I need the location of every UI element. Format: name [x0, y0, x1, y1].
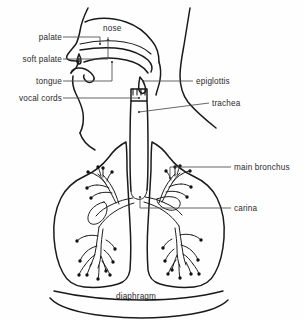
label-vocal-cords: vocal cords — [19, 94, 62, 103]
left-bud-13 — [113, 247, 116, 250]
right-bud-14 — [163, 259, 166, 262]
trachea-group — [130, 101, 148, 191]
right-bud-7 — [199, 238, 202, 241]
right-bud-12 — [178, 276, 181, 279]
left-lower-branch-8 — [104, 250, 113, 262]
label-diaphragm: diaphragm — [116, 292, 156, 301]
leader-soft-palate-dot — [78, 58, 80, 60]
left-bud-8 — [78, 259, 81, 262]
pharynx-posterior-wall — [156, 62, 161, 95]
anterior-neck-contour — [80, 133, 95, 150]
right-lower-branch-9 — [168, 260, 176, 274]
leader-palate-box-dot — [107, 39, 109, 41]
left-bud-12 — [96, 277, 99, 280]
bronchial-tree-group — [75, 164, 202, 280]
left-lower-branch-7 — [106, 240, 115, 249]
trachea-right-wall — [147, 101, 148, 190]
right-bud-13 — [161, 246, 164, 249]
left-bud-4 — [96, 165, 99, 168]
left-bud-9 — [77, 273, 80, 276]
left-bud-6 — [110, 170, 113, 173]
right-bud-2 — [189, 185, 192, 188]
oropharynx-arch-outline — [84, 58, 148, 73]
left-bud-15 — [108, 273, 111, 276]
leader-palate-dot — [99, 43, 101, 45]
label-carina: carina — [234, 204, 257, 213]
face-profile-outline — [67, 8, 88, 61]
right-lung-outline — [147, 142, 224, 287]
leader-main-bronchus-dot — [169, 177, 171, 179]
label-palate: palate — [39, 33, 63, 42]
left-lung-outline — [54, 142, 131, 287]
right-bud-3 — [185, 195, 188, 198]
trachea-left-wall — [130, 101, 131, 191]
left-bud-5 — [101, 166, 104, 169]
lungs-group — [54, 142, 224, 287]
right-lower-branch-8 — [165, 249, 174, 261]
leader-carina-dot — [139, 196, 141, 198]
right-upper-branch-2 — [169, 184, 191, 187]
left-upper-branch-3 — [91, 192, 112, 198]
left-upper-branch-2 — [87, 185, 109, 188]
left-bud-10 — [85, 273, 88, 276]
label-nose: nose — [103, 24, 122, 33]
leader-vocal-cords-dot — [138, 97, 140, 99]
respiratory-diagram-figure: palate soft palate tongue vocal cords no… — [0, 0, 305, 321]
left-bud-3 — [89, 196, 92, 199]
left-lower-branch-4 — [87, 263, 92, 275]
leader-trachea — [139, 103, 209, 112]
right-bud-8 — [196, 258, 199, 261]
right-bud-6 — [164, 169, 167, 172]
left-lower-branch-9 — [102, 261, 110, 275]
left-bud-2 — [85, 186, 88, 189]
right-bud-11 — [170, 268, 173, 271]
right-bud-15 — [166, 272, 169, 275]
leader-palate — [63, 37, 100, 44]
left-bud-11 — [104, 269, 107, 272]
left-bud-7 — [75, 239, 78, 242]
label-trachea: trachea — [212, 99, 241, 108]
posterior-neck-shoulder-contour — [180, 8, 216, 128]
left-bud-14 — [111, 260, 114, 263]
right-upper-lobe-bronchus-b — [159, 174, 175, 203]
right-lower-branch-7 — [163, 239, 172, 248]
leader-trachea-dot — [138, 111, 140, 113]
label-main-bronchus: main bronchus — [234, 163, 290, 172]
label-tongue: tongue — [36, 77, 62, 86]
left-lower-branch-1 — [77, 235, 98, 241]
neck-shoulder-group — [180, 8, 216, 128]
right-lower-branch-1 — [180, 234, 201, 240]
leader-epiglottis-dot — [142, 80, 144, 82]
label-soft-palate: soft palate — [23, 55, 63, 64]
nasal-cavity-roof — [85, 18, 159, 62]
tongue-root-contour — [73, 76, 84, 133]
right-bud-10 — [189, 272, 192, 275]
diagram-canvas: palate soft palate tongue vocal cords no… — [0, 0, 305, 321]
labels-group: palate soft palate tongue vocal cords no… — [19, 24, 290, 301]
left-upper-lobe-bronchus-b — [103, 175, 119, 204]
leader-tongue-dot — [111, 61, 113, 63]
right-bud-1 — [188, 169, 191, 172]
right-bud-9 — [197, 272, 200, 275]
label-epiglottis: epiglottis — [196, 77, 230, 86]
right-lower-branch-4 — [186, 262, 191, 274]
left-bud-1 — [86, 170, 89, 173]
